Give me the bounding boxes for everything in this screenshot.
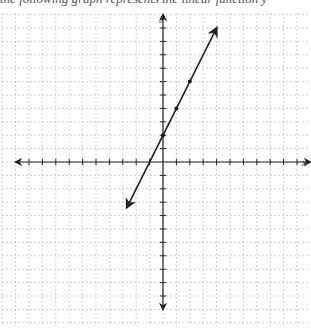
coordinate-plane: x y [0, 0, 311, 333]
grid-lines [2, 13, 310, 326]
y-axis-label: y [159, 11, 165, 23]
axes [16, 15, 311, 310]
x-axis-label: x [301, 156, 307, 168]
